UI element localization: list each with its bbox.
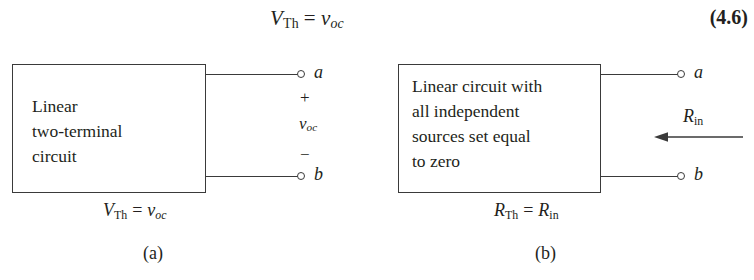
caption-equation-a: VTh=voc — [103, 200, 167, 223]
lead-wire-a-top — [205, 74, 299, 75]
terminal-label-a: a — [314, 62, 323, 83]
equation-rhs-subscript: oc — [330, 16, 343, 31]
lead-wire-b-bottom — [600, 176, 679, 177]
caption-b-rhs-subscript: in — [549, 208, 558, 222]
caption-b-relation: = — [518, 200, 538, 220]
rin-subscript: in — [694, 114, 703, 128]
zeroed-sources-circuit-label: Linear circuit with all independent sour… — [412, 74, 612, 174]
input-resistance-label: Rin — [683, 106, 703, 129]
equation-row: VTh=voc (4.6) — [0, 2, 754, 38]
caption-a-relation: = — [127, 200, 147, 220]
equation-relation: = — [299, 6, 321, 30]
terminal-label-b: b — [314, 164, 323, 185]
open-circuit-voltage-label: voc — [299, 114, 317, 134]
caption-b-lhs-subscript: Th — [505, 208, 518, 222]
main-equation: VTh=voc — [270, 6, 344, 32]
lead-wire-a-bottom — [205, 176, 299, 177]
terminal-node-a-icon — [297, 70, 305, 78]
caption-equation-b: RTh=Rin — [494, 200, 559, 223]
caption-a-rhs-subscript: oc — [155, 208, 166, 222]
terminal-node-b-icon — [677, 172, 685, 180]
caption-b-rhs-variable: R — [538, 200, 549, 220]
voc-subscript: oc — [307, 121, 318, 133]
subfigure-label-b: (b) — [535, 243, 556, 264]
input-resistance-arrow-icon — [652, 130, 744, 144]
linear-two-terminal-circuit-label: Linear two-terminal circuit — [32, 94, 202, 169]
rin-variable: R — [683, 106, 694, 126]
polarity-minus-sign: − — [300, 145, 310, 165]
terminal-label-b: b — [694, 164, 703, 185]
equation-lhs-subscript: Th — [283, 16, 299, 31]
terminal-node-a-icon — [677, 70, 685, 78]
terminal-node-b-icon — [297, 172, 305, 180]
caption-b-lhs-variable: R — [494, 200, 505, 220]
subfigure-label-a: (a) — [143, 243, 163, 264]
caption-a-lhs-subscript: Th — [114, 208, 127, 222]
lead-wire-b-top — [600, 74, 679, 75]
caption-a-lhs-variable: V — [103, 200, 114, 220]
equation-number: (4.6) — [710, 6, 748, 29]
polarity-plus-sign: + — [300, 88, 310, 108]
terminal-label-a: a — [694, 62, 703, 83]
voc-variable: v — [299, 114, 307, 133]
equation-lhs-variable: V — [270, 6, 283, 30]
equation-rhs-variable: v — [321, 6, 331, 30]
